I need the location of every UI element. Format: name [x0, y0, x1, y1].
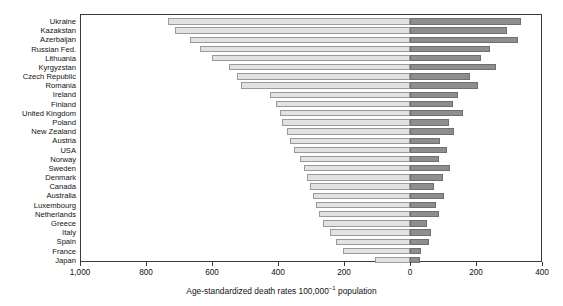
x-tick-mark: [410, 262, 411, 266]
bar-row: [80, 17, 542, 26]
bar-segment-right: [410, 248, 421, 254]
x-tick-label: 600: [205, 267, 219, 278]
y-axis-label-czech-republic: Czech Republic: [0, 72, 76, 81]
x-tick-label: 1,000: [70, 267, 91, 278]
bar-segment-left: [282, 119, 410, 125]
y-axis-label-romania: Romania: [0, 81, 76, 90]
bar-segment-left: [294, 147, 410, 153]
bar-segment-right: [410, 73, 470, 79]
x-tick-mark: [476, 262, 477, 266]
x-tick-mark: [344, 262, 345, 266]
bar-row: [80, 173, 542, 182]
bar-row: [80, 63, 542, 72]
y-axis-label-finland: Finland: [0, 100, 76, 109]
y-axis-category-labels: UkraineKazakstanAzerbaijanRussian Fed.Li…: [0, 14, 76, 262]
bar-row: [80, 109, 542, 118]
y-axis-label-ireland: Ireland: [0, 90, 76, 99]
bar-row: [80, 127, 542, 136]
bar-series-container: [80, 14, 542, 262]
bar-row: [80, 228, 542, 237]
bar-segment-left: [319, 211, 410, 217]
bar-segment-right: [410, 55, 481, 61]
y-axis-label-sweden: Sweden: [0, 164, 76, 173]
y-axis-label-united-kingdom: United Kingdom: [0, 109, 76, 118]
x-axis-title-suffix: population: [336, 286, 377, 296]
x-tick-label: 200: [337, 267, 351, 278]
bar-segment-right: [410, 183, 434, 189]
y-axis-label-azerbaijan: Azerbaijan: [0, 35, 76, 44]
y-axis-label-netherlands: Netherlands: [0, 210, 76, 219]
bar-segment-right: [410, 110, 463, 116]
bar-segment-left: [307, 174, 410, 180]
bar-segment-right: [410, 101, 453, 107]
bar-row: [80, 247, 542, 256]
bar-row: [80, 237, 542, 246]
x-tick-mark: [80, 262, 81, 266]
bar-segment-left: [313, 193, 410, 199]
bar-segment-right: [410, 128, 454, 134]
bar-row: [80, 210, 542, 219]
bar-row: [80, 118, 542, 127]
bar-row: [80, 136, 542, 145]
bar-row: [80, 26, 542, 35]
bar-row: [80, 191, 542, 200]
bar-segment-right: [410, 202, 436, 208]
y-axis-label-luxembourg: Luxembourg: [0, 201, 76, 210]
x-tick-mark: [212, 262, 213, 266]
bar-segment-right: [410, 174, 443, 180]
bar-segment-left: [280, 110, 410, 116]
bar-segment-left: [212, 55, 410, 61]
x-tick-label: 800: [139, 267, 153, 278]
bar-segment-left: [241, 82, 410, 88]
bar-row: [80, 100, 542, 109]
bar-segment-left: [343, 248, 410, 254]
bar-segment-left: [276, 101, 410, 107]
bar-row: [80, 45, 542, 54]
bar-row: [80, 72, 542, 81]
bar-row: [80, 90, 542, 99]
y-axis-label-canada: Canada: [0, 182, 76, 191]
bar-segment-left: [330, 229, 410, 235]
bar-segment-right: [410, 46, 490, 52]
bar-segment-left: [175, 27, 410, 33]
bar-segment-right: [410, 193, 444, 199]
bar-segment-left: [200, 46, 410, 52]
bar-row: [80, 35, 542, 44]
chart-root: UkraineKazakstanAzerbaijanRussian Fed.Li…: [0, 0, 563, 306]
bar-row: [80, 201, 542, 210]
bar-row: [80, 146, 542, 155]
bar-segment-left: [237, 73, 410, 79]
x-axis-title-exponent: −1: [329, 285, 336, 291]
bar-segment-right: [410, 147, 447, 153]
bar-segment-left: [190, 37, 410, 43]
bar-row: [80, 54, 542, 63]
x-tick-label: 400: [271, 267, 285, 278]
y-axis-label-denmark: Denmark: [0, 173, 76, 182]
y-axis-label-kyrgyzstan: Kyrgyzstan: [0, 63, 76, 72]
y-axis-label-russian-fed: Russian Fed.: [0, 45, 76, 54]
bar-segment-right: [410, 37, 518, 43]
y-axis-label-italy: Italy: [0, 228, 76, 237]
bar-segment-right: [410, 239, 429, 245]
bar-segment-right: [410, 138, 440, 144]
y-axis-label-poland: Poland: [0, 118, 76, 127]
bar-row: [80, 155, 542, 164]
y-axis-label-greece: Greece: [0, 219, 76, 228]
bar-segment-right: [410, 27, 507, 33]
bar-segment-right: [410, 220, 427, 226]
bar-segment-left: [336, 239, 410, 245]
y-axis-label-ukraine: Ukraine: [0, 17, 76, 26]
bar-segment-left: [270, 92, 410, 98]
bar-segment-left: [323, 220, 410, 226]
bar-row: [80, 182, 542, 191]
bar-row: [80, 219, 542, 228]
bar-segment-left: [287, 128, 410, 134]
bar-segment-right: [410, 92, 458, 98]
bar-segment-left: [310, 183, 410, 189]
y-axis-label-lithuania: Lithuania: [0, 54, 76, 63]
x-axis-tick-labels: 1,0008006004002000200400: [0, 267, 563, 279]
bar-segment-right: [410, 82, 478, 88]
y-axis-label-france: France: [0, 247, 76, 256]
y-axis-label-spain: Spain: [0, 237, 76, 246]
bar-segment-right: [410, 156, 439, 162]
